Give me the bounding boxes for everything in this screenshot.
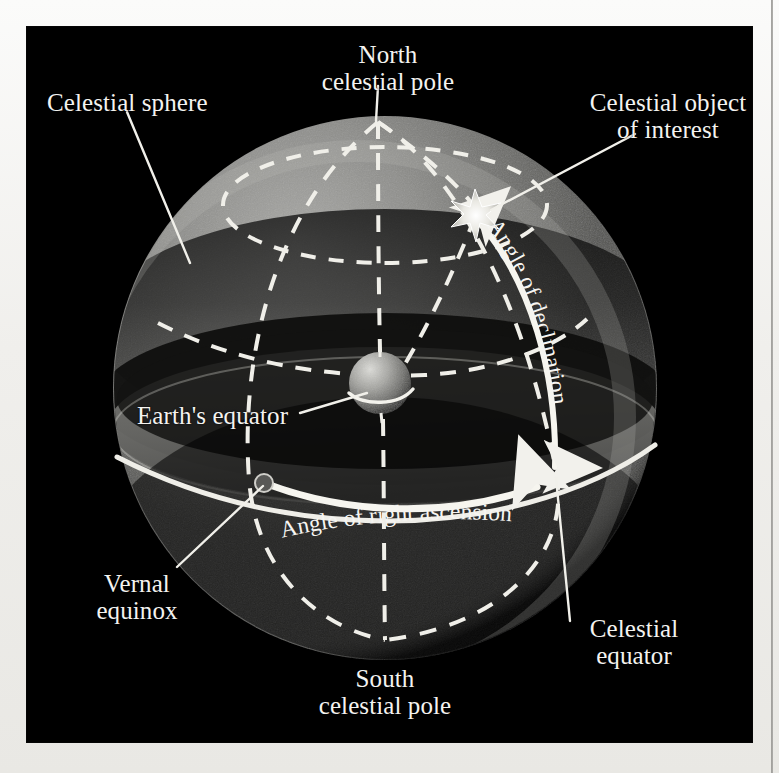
south-celestial-pole-line1: South <box>319 665 452 692</box>
figure-plate: Angle of declination Angle of right asce… <box>27 27 752 742</box>
label-earths-equator: Earth's equator <box>137 402 288 429</box>
north-celestial-pole-line1: North <box>322 41 455 68</box>
earth-axis-south-stub <box>381 413 382 423</box>
earth-body <box>349 352 411 414</box>
page-root: Angle of declination Angle of right asce… <box>0 0 779 773</box>
label-vernal-equinox: Vernal equinox <box>96 570 177 624</box>
label-north-celestial-pole: North celestial pole <box>322 41 455 95</box>
celestial-object-line2: of interest <box>590 116 746 143</box>
vernal-equinox-point <box>255 474 273 492</box>
figure-canvas: Angle of declination Angle of right asce… <box>27 27 752 742</box>
north-celestial-pole-line2: celestial pole <box>322 68 455 95</box>
south-celestial-pole-line2: celestial pole <box>319 692 452 719</box>
celestial-object-line1: Celestial object <box>590 89 746 116</box>
page-gutter-line <box>771 0 773 773</box>
label-celestial-object: Celestial object of interest <box>590 89 746 143</box>
vernal-equinox-line1: Vernal <box>96 570 177 597</box>
label-south-celestial-pole: South celestial pole <box>319 665 452 719</box>
celestial-equator-line1: Celestial <box>590 615 678 642</box>
celestial-equator-line2: equator <box>590 642 678 669</box>
vernal-equinox-line2: equinox <box>96 597 177 624</box>
label-celestial-equator: Celestial equator <box>590 615 678 669</box>
label-celestial-sphere: Celestial sphere <box>47 89 208 116</box>
